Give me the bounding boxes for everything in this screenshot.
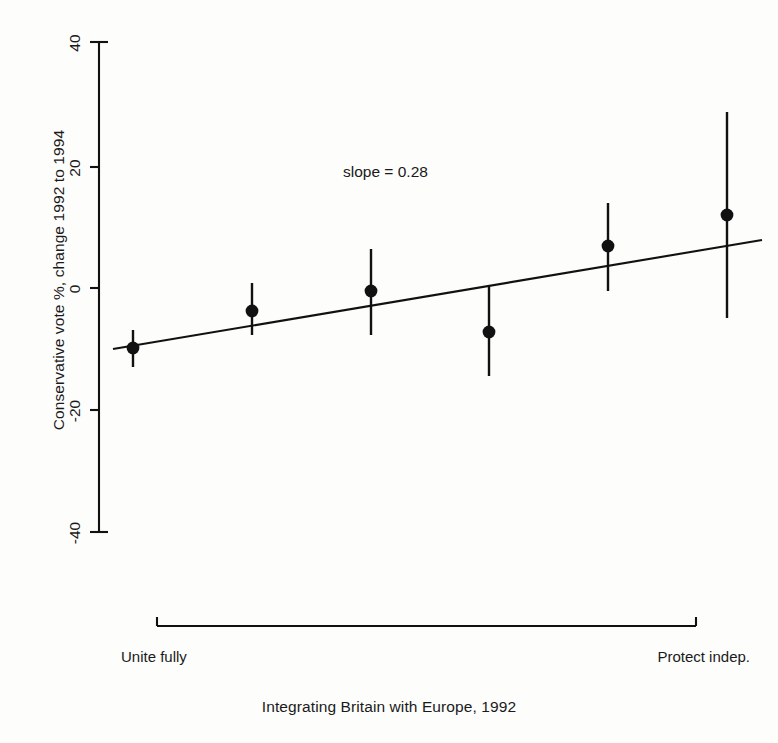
y-axis-title: Conservative vote %, change 1992 to 1994 bbox=[42, 0, 76, 560]
y-axis-ticks bbox=[90, 42, 99, 532]
error-bars bbox=[133, 112, 727, 376]
slope-annotation: slope = 0.28 bbox=[343, 163, 428, 181]
data-points bbox=[127, 209, 734, 355]
x-axis-bracket bbox=[157, 617, 696, 626]
regression-line bbox=[113, 240, 762, 349]
x-label-protect-indep: Protect indep. bbox=[657, 648, 750, 665]
data-point bbox=[602, 240, 615, 253]
y-axis bbox=[99, 42, 108, 532]
data-point bbox=[483, 326, 496, 339]
data-point bbox=[721, 209, 734, 222]
data-point bbox=[365, 285, 378, 298]
x-label-unite-fully: Unite fully bbox=[121, 648, 187, 665]
data-point bbox=[127, 342, 140, 355]
plot-canvas bbox=[0, 0, 778, 743]
data-point bbox=[246, 305, 259, 318]
chart-figure: 40 20 0 -20 -40 Conservative vote %, cha… bbox=[0, 0, 778, 743]
x-axis-title: Integrating Britain with Europe, 1992 bbox=[0, 698, 778, 716]
